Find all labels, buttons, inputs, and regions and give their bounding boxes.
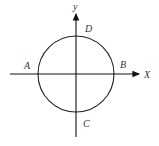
x-axis-label: X [143,69,151,80]
y-axis-label: y [72,1,78,12]
point-label-c: C [83,118,90,129]
point-label-d: D [84,23,93,34]
coordinate-diagram: y X D A B C [0,0,159,146]
point-label-a: A [23,60,31,71]
point-label-b: B [120,59,126,70]
